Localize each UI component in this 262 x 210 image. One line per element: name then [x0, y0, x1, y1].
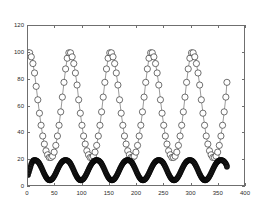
data-point-marker [151, 54, 157, 60]
data-point-marker [74, 82, 80, 88]
data-point-marker [216, 142, 222, 148]
data-point-marker [180, 109, 186, 115]
data-point-marker [36, 110, 42, 116]
data-point-marker [185, 66, 191, 72]
x-tick-label-150: 150 [104, 190, 114, 197]
series-upper-series [28, 50, 230, 161]
data-point-marker [224, 164, 229, 169]
data-point-marker [136, 133, 142, 139]
data-point-marker [221, 109, 227, 115]
y-tick-label-80: 80 [17, 75, 24, 82]
x-tick-label-100: 100 [76, 190, 86, 197]
data-point-marker [139, 109, 145, 115]
x-tick-label-300: 300 [185, 190, 195, 197]
data-point-marker [123, 141, 129, 147]
x-tick-label-0: 0 [25, 190, 28, 197]
x-tickmark-top-100 [82, 25, 83, 28]
data-point-marker [193, 60, 199, 66]
x-tickmark-150 [109, 183, 110, 186]
data-point-marker [35, 97, 41, 103]
x-tickmark-300 [191, 183, 192, 186]
x-tick-label-50: 50 [51, 190, 58, 197]
y-tickmark-right-60 [242, 106, 245, 107]
x-tickmark-100 [82, 183, 83, 186]
data-point-marker [144, 66, 150, 72]
x-tickmark-top-250 [163, 25, 164, 28]
y-tickmark-120 [27, 25, 30, 26]
data-point-marker [116, 97, 122, 103]
y-tick-label-120: 120 [14, 22, 24, 29]
data-point-marker [40, 133, 46, 139]
data-point-marker [58, 109, 64, 115]
data-point-marker [31, 70, 37, 76]
data-point-marker [56, 122, 62, 128]
y-tickmark-100 [27, 52, 30, 53]
y-tickmark-20 [27, 159, 30, 160]
data-point-marker [197, 82, 203, 88]
data-point-marker [79, 122, 85, 128]
data-point-marker [72, 70, 78, 76]
y-tick-label-60: 60 [17, 102, 24, 109]
series-lower-series [28, 158, 230, 183]
data-point-marker [33, 83, 39, 89]
y-tickmark-80 [27, 79, 30, 80]
x-tickmark-top-200 [136, 25, 137, 28]
data-point-marker [112, 60, 118, 66]
data-point-marker [159, 110, 165, 116]
y-tick-label-100: 100 [14, 48, 24, 55]
data-point-marker [134, 142, 140, 148]
data-point-marker [156, 82, 162, 88]
x-tickmark-top-350 [218, 25, 219, 28]
data-point-marker [80, 133, 86, 139]
y-tickmark-right-120 [242, 25, 245, 26]
y-tickmark-60 [27, 106, 30, 107]
data-point-marker [38, 122, 44, 128]
data-point-marker [97, 122, 103, 128]
data-point-marker [195, 70, 201, 76]
x-tickmark-top-50 [54, 25, 55, 28]
data-point-marker [174, 149, 180, 155]
data-point-marker [161, 122, 167, 128]
data-point-marker [61, 79, 67, 85]
data-point-marker [102, 79, 108, 85]
series-layer [28, 26, 245, 186]
y-tick-label-40: 40 [17, 129, 24, 136]
data-point-marker [118, 110, 124, 116]
data-point-marker [152, 60, 158, 66]
y-tickmark-right-40 [242, 132, 245, 133]
data-point-marker [143, 79, 149, 85]
data-point-marker [69, 54, 75, 60]
plot-area [27, 25, 245, 186]
x-tick-label-350: 350 [213, 190, 223, 197]
data-point-marker [157, 97, 163, 103]
x-tickmark-50 [54, 183, 55, 186]
data-point-marker [179, 122, 185, 128]
data-point-marker [219, 122, 225, 128]
data-point-marker [200, 110, 206, 116]
x-tickmark-top-300 [191, 25, 192, 28]
data-point-marker [177, 133, 183, 139]
data-point-marker [121, 133, 127, 139]
data-point-marker [205, 141, 211, 147]
data-point-marker [98, 109, 104, 115]
data-point-marker [53, 142, 59, 148]
data-point-marker [215, 149, 221, 155]
y-tickmark-right-0 [242, 186, 245, 187]
figure-canvas: 050100150200250300350400 020406080100120 [0, 0, 262, 210]
y-tickmark-right-20 [242, 159, 245, 160]
data-point-marker [28, 54, 34, 60]
y-tickmark-0 [27, 186, 30, 187]
data-point-marker [77, 110, 83, 116]
y-tickmark-40 [27, 132, 30, 133]
data-point-marker [30, 60, 36, 66]
data-point-marker [51, 149, 57, 155]
data-point-marker [138, 122, 144, 128]
x-tickmark-400 [245, 183, 246, 186]
data-point-marker [71, 60, 77, 66]
data-point-marker [59, 94, 65, 100]
data-point-marker [103, 66, 109, 72]
data-point-marker [95, 133, 101, 139]
data-point-marker [223, 94, 229, 100]
data-point-marker [76, 97, 82, 103]
data-point-marker [183, 79, 189, 85]
